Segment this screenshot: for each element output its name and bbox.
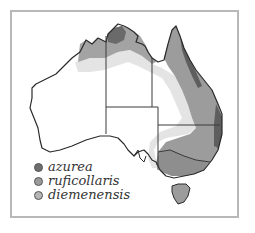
tasmania xyxy=(172,184,190,204)
legend-label: ruficollaris xyxy=(48,174,119,188)
legend-label: azurea xyxy=(48,160,93,174)
azurea-swatch-icon xyxy=(34,163,43,172)
diemenensis-swatch-icon xyxy=(34,191,43,200)
legend: azurea ruficollaris diemenensis xyxy=(34,160,130,202)
legend-item-diemenensis: diemenensis xyxy=(34,188,130,202)
legend-label: diemenensis xyxy=(48,188,130,202)
legend-item-azurea: azurea xyxy=(34,160,130,174)
legend-item-ruficollaris: ruficollaris xyxy=(34,174,130,188)
ruficollaris-swatch-icon xyxy=(34,177,43,186)
